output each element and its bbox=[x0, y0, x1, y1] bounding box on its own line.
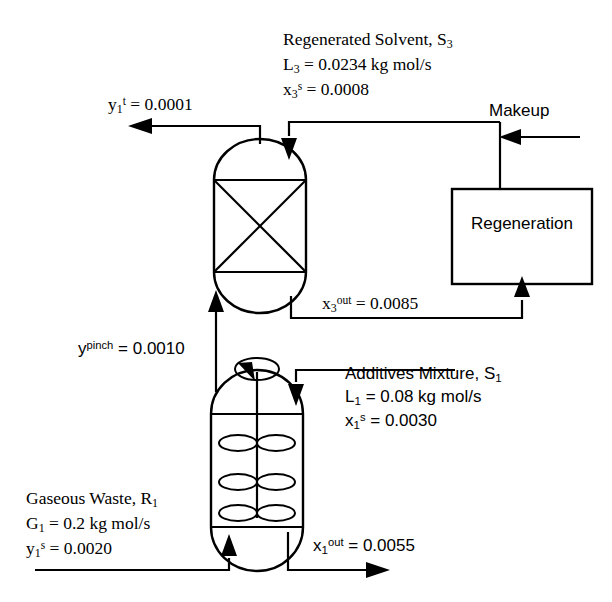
label-regenerated-solvent: Regenerated Solvent, S3 L3 = 0.0234 kg m… bbox=[283, 28, 453, 102]
gaseous-waste-name-row: Gaseous Waste, R1 bbox=[26, 487, 158, 512]
regeneration-box bbox=[452, 189, 592, 284]
impeller-blade-left-2 bbox=[219, 474, 257, 490]
additives-flow-row: L1 = 0.08 kg mol/s bbox=[345, 386, 502, 409]
regenerated-solvent-flow-row: L3 = 0.0234 kg mol/s bbox=[283, 53, 453, 78]
label-makeup: Makeup bbox=[489, 100, 549, 122]
impeller-blade-left-1 bbox=[219, 435, 257, 451]
impeller-blade-right-1 bbox=[257, 435, 295, 451]
process-flow-diagram: Regenerated Solvent, S3 L3 = 0.0234 kg m… bbox=[0, 0, 612, 602]
makeup-arrowhead bbox=[499, 129, 521, 145]
additives-name-row: Additives Mixture, S1 bbox=[345, 363, 502, 386]
label-liquid-outlet-composition: x1out = 0.0055 bbox=[313, 535, 415, 558]
pinch-gas-stream bbox=[208, 290, 224, 392]
impeller-blade-right-2 bbox=[257, 474, 295, 490]
treated-gas-stream bbox=[128, 118, 260, 144]
label-gaseous-waste: Gaseous Waste, R1 G1 = 0.2 kg mol/s y1s … bbox=[26, 487, 158, 561]
regenerated-solvent-name-row: Regenerated Solvent, S3 bbox=[283, 28, 453, 53]
label-regeneration-unit: Regeneration bbox=[452, 213, 592, 235]
label-pinch-gas-composition: ypinch = 0.0010 bbox=[78, 338, 185, 360]
additives-comp-row: x1s = 0.0030 bbox=[345, 410, 502, 433]
regenerated-solvent-line bbox=[289, 122, 500, 136]
gaseous-waste-comp-row: y1s = 0.0020 bbox=[26, 537, 158, 562]
absorption-column bbox=[214, 139, 306, 313]
regenerated-solvent-comp-row: x3s = 0.0008 bbox=[283, 78, 453, 103]
label-spent-solvent-composition: x3out = 0.0085 bbox=[322, 292, 418, 317]
label-treated-gas-composition: y1t = 0.0001 bbox=[108, 93, 193, 118]
stirred-tank-vessel bbox=[211, 358, 303, 571]
gaseous-waste-flow-row: G1 = 0.2 kg mol/s bbox=[26, 512, 158, 537]
impeller-blade-right-3 bbox=[257, 505, 295, 521]
treated-gas-arrowhead bbox=[128, 118, 152, 134]
label-additives-mixture: Additives Mixture, S1 L1 = 0.08 kg mol/s… bbox=[345, 363, 502, 433]
makeup-stream bbox=[499, 122, 580, 189]
regeneration-unit bbox=[452, 189, 592, 284]
impeller-blade-left-3 bbox=[219, 505, 257, 521]
liquid-outlet-arrowhead bbox=[366, 562, 390, 578]
regenerated-solvent-stream bbox=[281, 122, 500, 160]
